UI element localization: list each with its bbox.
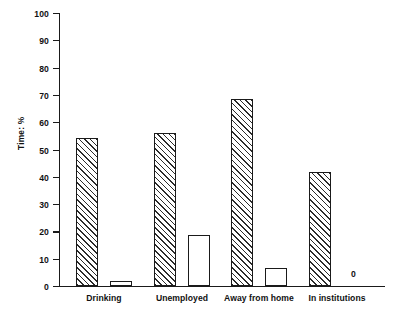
y-axis-tick: 0: [53, 286, 60, 287]
y-axis-tick-label: 90: [39, 36, 49, 46]
y-axis-tick-label: 20: [39, 227, 49, 237]
y-axis-tick: 100: [53, 13, 60, 14]
bar-hatched: [231, 99, 253, 286]
x-axis-line: [58, 286, 385, 287]
y-axis-tick-label: 50: [39, 146, 49, 156]
x-axis-category-label: In institutions: [308, 293, 365, 303]
y-axis-tick-label: 70: [39, 91, 49, 101]
y-axis-tick-label: 80: [39, 64, 49, 74]
y-axis-tick: 10: [53, 259, 60, 260]
y-axis-tick-label: 0: [44, 282, 49, 292]
bar-open: [188, 235, 210, 286]
bar-open: [110, 281, 132, 286]
x-axis-category-label: Away from home: [224, 293, 294, 303]
y-axis-tick-label: 100: [34, 9, 49, 19]
y-axis-tick: 90: [53, 40, 60, 41]
y-axis-tick: 80: [53, 68, 60, 69]
bar-hatched: [309, 172, 331, 287]
x-axis-category-label: Unemployed: [156, 293, 208, 303]
bar-hatched: [76, 138, 98, 287]
y-axis-tick: 70: [53, 95, 60, 96]
y-axis-tick: 50: [53, 150, 60, 151]
zero-value-annotation: 0: [351, 269, 356, 279]
y-axis-tick-label: 40: [39, 173, 49, 183]
bar-chart-figure: Time: % 0102030405060708090100 0 Drinkin…: [0, 0, 393, 321]
y-axis-tick-label: 10: [39, 255, 49, 265]
plot-area: 0102030405060708090100 0: [59, 13, 385, 287]
y-axis-tick-label: 30: [39, 200, 49, 210]
y-axis-tick: 30: [53, 204, 60, 205]
y-axis-tick: 20: [53, 231, 60, 232]
y-axis-title: Time: %: [16, 117, 26, 150]
x-axis-category-label: Drinking: [86, 293, 121, 303]
bar-hatched: [154, 133, 176, 286]
y-axis-tick: 40: [53, 177, 60, 178]
bar-open: [265, 268, 287, 287]
y-axis-tick: 60: [53, 122, 60, 123]
y-axis-tick-label: 60: [39, 118, 49, 128]
